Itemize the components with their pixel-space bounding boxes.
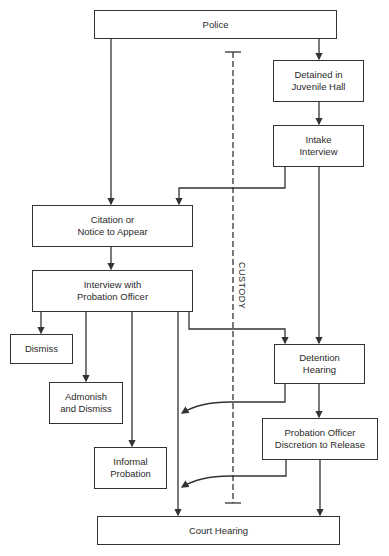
dismiss-label: Dismiss	[25, 343, 58, 355]
citation-label: Citation or Notice to Appear	[77, 214, 147, 238]
informal-label: Informal Probation	[110, 456, 151, 480]
admonish-box: Admonish and Dismiss	[49, 382, 123, 424]
police-box: Police	[94, 10, 337, 39]
court-label: Court Hearing	[189, 525, 248, 537]
custody-label: CUSTODY	[237, 262, 247, 309]
citation-box: Citation or Notice to Appear	[32, 205, 193, 247]
detention-box: Detention Hearing	[274, 344, 365, 384]
interview-box: Interview with Probation Officer	[32, 270, 193, 312]
intake-box: Intake Interview	[273, 125, 364, 167]
intake-label: Intake Interview	[299, 134, 337, 158]
discretion-label: Probation Officer Discretion to Release	[275, 427, 365, 451]
informal-box: Informal Probation	[94, 447, 167, 489]
detained-box: Detained in Juvenile Hall	[273, 60, 364, 102]
admonish-label: Admonish and Dismiss	[60, 391, 112, 415]
discretion-box: Probation Officer Discretion to Release	[262, 418, 378, 460]
detention-label: Detention Hearing	[299, 352, 340, 376]
police-label: Police	[203, 19, 229, 31]
court-box: Court Hearing	[97, 516, 340, 545]
dismiss-box: Dismiss	[10, 334, 73, 364]
detained-label: Detained in Juvenile Hall	[292, 69, 346, 93]
interview-label: Interview with Probation Officer	[77, 279, 148, 303]
